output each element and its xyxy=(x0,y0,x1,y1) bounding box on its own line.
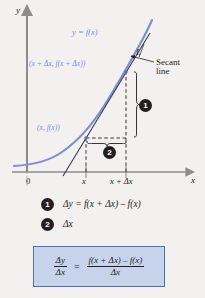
y-axis-label: y xyxy=(16,6,20,15)
point-second-marker xyxy=(124,70,127,73)
secant-line-label: Secant line xyxy=(156,58,180,76)
point-first-label: (x, f(x)) xyxy=(37,124,60,132)
legend-label-1: Δy = f(x + Δx) – f(x) xyxy=(63,198,141,211)
x-tick-label: x xyxy=(82,176,86,186)
formula-left-denominator: Δx xyxy=(54,266,67,278)
legend-badge-1: 1 xyxy=(41,198,54,211)
curve-label: y = f(x) xyxy=(72,28,98,37)
legend-label-2: Δx xyxy=(63,218,73,231)
formula-right-fraction: f(x + Δx) – f(x) Δx xyxy=(87,255,145,278)
secant-line-label-part2: line xyxy=(156,67,180,76)
difference-quotient-box: Δy Δx = f(x + Δx) – f(x) Δx xyxy=(33,246,165,287)
x-plus-dx-tick-label: x + Δx xyxy=(110,176,133,186)
x-axis xyxy=(12,166,187,178)
origin-tick-label: 0 xyxy=(26,176,30,186)
formula-right-numerator: f(x + Δx) – f(x) xyxy=(87,255,145,266)
secant-name-label: L xyxy=(136,48,141,57)
callout-legend: 1 Δy = f(x + Δx) – f(x) 2 Δx xyxy=(41,196,205,236)
x-axis-label: x xyxy=(191,176,195,185)
callout-badge-2: 2 xyxy=(103,146,116,159)
legend-badge-2: 2 xyxy=(41,218,54,231)
formula-left-fraction: Δy Δx xyxy=(54,255,67,278)
formula-left-numerator: Δy xyxy=(54,255,67,266)
secant-line-figure: y x y = f(x) (x + Δx, f(x + Δx)) (x, f(x… xyxy=(0,0,205,298)
legend-row-1: 1 Δy = f(x + Δx) – f(x) xyxy=(41,196,205,216)
callout-badge-1: 1 xyxy=(139,99,152,112)
formula-equals-sign: = xyxy=(74,261,80,272)
formula-right-denominator: Δx xyxy=(87,266,145,278)
point-second-label: (x + Δx, f(x + Δx)) xyxy=(29,60,85,68)
point-first-marker xyxy=(84,136,87,139)
legend-row-2: 2 Δx xyxy=(41,216,205,236)
